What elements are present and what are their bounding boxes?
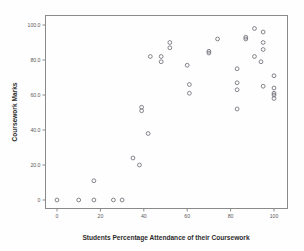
y-tick-label: 80.0 xyxy=(30,57,40,63)
scatter-plot-figure: 020.040.060.080.0100.0 020406080100 Stud… xyxy=(0,0,304,251)
data-point xyxy=(261,41,265,45)
data-point xyxy=(261,48,265,52)
y-axis-title: Coursework Marks xyxy=(11,82,18,141)
data-point xyxy=(168,41,172,45)
data-point xyxy=(55,198,59,202)
x-tick-label: 40 xyxy=(141,213,147,219)
data-point xyxy=(159,60,163,64)
x-axis-ticks: 020406080100 xyxy=(56,209,279,219)
data-point xyxy=(272,74,276,78)
data-point xyxy=(259,60,263,64)
data-point xyxy=(216,37,220,41)
data-point xyxy=(235,88,239,92)
plot-canvas: 020.040.060.080.0100.0 020406080100 Stud… xyxy=(0,0,304,251)
data-point xyxy=(185,63,189,67)
data-point xyxy=(272,86,276,90)
data-point xyxy=(138,163,142,167)
y-tick-label: 100.0 xyxy=(28,22,41,28)
data-point xyxy=(148,55,152,59)
x-tick-label: 0 xyxy=(56,213,59,219)
x-tick-label: 20 xyxy=(98,213,104,219)
y-tick-label: 60.0 xyxy=(30,92,40,98)
y-axis-ticks: 020.040.060.080.0100.0 xyxy=(28,22,46,203)
x-axis-title: Students Percentage Attendance of their … xyxy=(82,234,250,242)
data-point-group xyxy=(55,27,276,202)
x-tick-label: 100 xyxy=(270,213,279,219)
y-tick-label: 0 xyxy=(38,197,41,203)
x-tick-label: 60 xyxy=(184,213,190,219)
data-point xyxy=(120,198,124,202)
data-point xyxy=(187,83,191,87)
data-point xyxy=(92,179,96,183)
data-point xyxy=(159,55,163,59)
data-point xyxy=(92,198,96,202)
data-point xyxy=(235,81,239,85)
data-point xyxy=(112,198,116,202)
data-point xyxy=(253,55,257,59)
data-point xyxy=(235,67,239,71)
data-point xyxy=(261,30,265,34)
x-tick-label: 80 xyxy=(228,213,234,219)
data-point xyxy=(253,27,257,31)
data-point xyxy=(261,84,265,88)
data-point xyxy=(146,132,150,136)
data-point xyxy=(235,107,239,111)
data-point xyxy=(187,91,191,95)
data-point xyxy=(131,156,135,160)
y-tick-label: 20.0 xyxy=(30,162,40,168)
data-point xyxy=(77,198,81,202)
plot-frame xyxy=(46,16,288,209)
data-point xyxy=(168,46,172,50)
y-tick-label: 40.0 xyxy=(30,127,40,133)
